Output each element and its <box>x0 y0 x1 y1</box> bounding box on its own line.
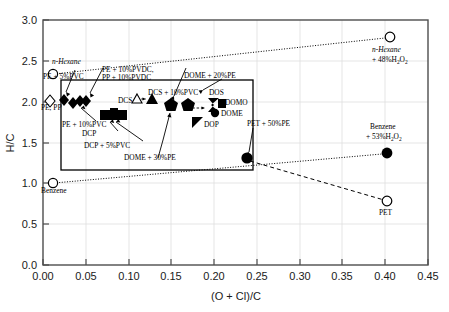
label-pet-50pe: PET + 50%PE <box>247 119 291 128</box>
label-n-hexane-peroxide-line2: + 48%H2O2 <box>372 55 408 65</box>
marker-dome <box>211 109 219 117</box>
label-pet: PET <box>379 208 393 217</box>
marker-benzene-peroxide <box>382 148 393 159</box>
marker-dcp <box>100 110 114 120</box>
marker-dcp-tab <box>110 108 118 111</box>
x-tick-1: 0.05 <box>75 270 96 282</box>
scatter-chart: 0.00 0.05 0.10 0.15 0.20 0.25 0.30 0.35 … <box>0 0 449 312</box>
x-tick-2: 0.10 <box>118 270 139 282</box>
label-pp-10pvdc: PP + 10%PVDC <box>102 73 151 82</box>
bzp-sub2: 2 <box>399 136 402 142</box>
marker-pet <box>382 196 392 206</box>
nhx-sub2: 2 <box>405 59 408 65</box>
label-pe-5pvc: PE + 5%PVC <box>43 72 84 81</box>
label-n-hexane: n-Hexane <box>52 57 81 66</box>
y-tick-6: 3.0 <box>22 14 37 26</box>
x-tick-4: 0.20 <box>203 270 224 282</box>
label-dcs: DCS <box>118 96 132 105</box>
bzp-h: + 53%H <box>366 132 392 141</box>
label-benzene-peroxide-line1: Benzene <box>370 122 396 131</box>
x-tick-3: 0.15 <box>160 270 181 282</box>
label-domo: DOMO <box>225 98 248 107</box>
x-tick-0: 0.00 <box>32 270 53 282</box>
label-dcp-5pvc: DCP + 5%PVC <box>84 141 130 150</box>
x-tick-5: 0.25 <box>246 270 267 282</box>
label-pe-pp: PE, PP <box>41 103 62 112</box>
label-benzene-peroxide-line2: + 53%H2O2 <box>366 132 402 142</box>
x-axis-title: (O + Cl)/C <box>211 290 261 302</box>
y-tick-3: 1.5 <box>22 137 37 149</box>
label-dome-30pe: DOME + 30%PE <box>124 153 176 162</box>
label-dome-20pe: DOME + 20%PE <box>184 71 236 80</box>
marker-dcp-5pvc <box>113 110 127 120</box>
label-dcp: DCP <box>82 129 96 138</box>
y-tick-4: 2.0 <box>22 96 37 108</box>
x-tick-6: 0.30 <box>289 270 310 282</box>
y-tick-1: 0.5 <box>22 218 37 230</box>
label-dop: DOP <box>204 120 219 129</box>
label-benzene: Benzene <box>41 186 67 195</box>
x-tick-9: 0.45 <box>417 270 438 282</box>
y-axis-title: H/C <box>4 133 16 152</box>
label-dos: DOS <box>209 88 224 97</box>
label-dcs-10pvc: DCS + 10%PVC <box>148 88 198 97</box>
x-tick-8: 0.40 <box>374 270 395 282</box>
y-tick-2: 1.0 <box>22 177 37 189</box>
y-tick-0: 0.0 <box>22 259 37 271</box>
y-tick-5: 2.5 <box>22 55 37 67</box>
nhx-h: + 48%H <box>372 55 398 64</box>
label-pe-10pvc: PE + 10%PVC <box>62 120 106 129</box>
chart-svg: 0.00 0.05 0.10 0.15 0.20 0.25 0.30 0.35 … <box>0 0 449 312</box>
label-dome: DOME <box>221 109 243 118</box>
x-tick-7: 0.35 <box>331 270 352 282</box>
label-n-hexane-peroxide-line1: n-Hexane <box>372 45 401 54</box>
marker-n-hexane-peroxide <box>385 32 395 42</box>
